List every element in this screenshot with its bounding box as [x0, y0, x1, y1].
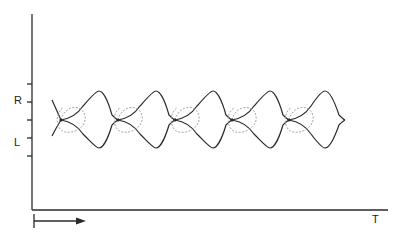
y-label-l: L: [14, 137, 20, 148]
lens-chain: [57, 91, 345, 148]
lens-strand: [61, 91, 118, 120]
lens-strand: [289, 120, 345, 148]
entry-strands: [52, 100, 61, 136]
lens-strand: [175, 120, 232, 148]
lens-strand: [289, 91, 345, 120]
lens-strand: [118, 91, 175, 120]
crossing-node: [287, 118, 290, 121]
lens-strand: [232, 120, 289, 148]
crossing-node: [173, 118, 176, 121]
lens-strand: [175, 91, 232, 120]
y-axis-ticks: [27, 84, 32, 156]
y-label-r: R: [14, 95, 22, 106]
braid-diagram: [0, 0, 401, 233]
crossing-node: [59, 118, 62, 121]
x-label-t: T: [372, 214, 379, 225]
lens-strand: [61, 120, 118, 148]
lens-strand: [232, 91, 289, 120]
lens-strand: [118, 120, 175, 148]
crossing-node: [230, 118, 233, 121]
crossing-node: [116, 118, 119, 121]
time-arrow-icon: [34, 214, 86, 228]
